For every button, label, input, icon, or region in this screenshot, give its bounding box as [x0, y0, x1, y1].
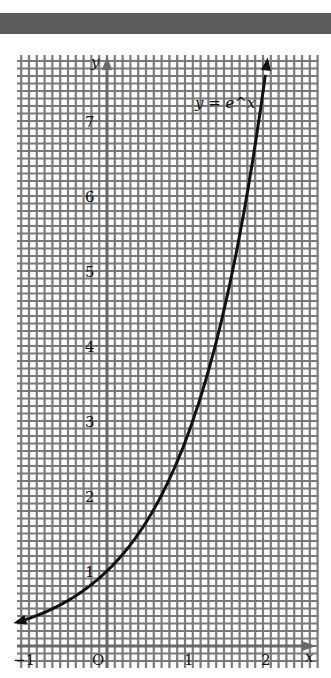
curve-label: y = e^x	[194, 94, 256, 112]
y-tick-label: 4	[85, 338, 95, 356]
origin-label: O	[92, 651, 104, 669]
grid	[17, 55, 318, 668]
x-tick-label: 2	[261, 651, 271, 669]
x-tick-label: 1	[184, 651, 194, 669]
x-axis-label: x	[305, 648, 314, 666]
y-axis-label: y	[90, 53, 100, 71]
y-tick-label: 2	[85, 488, 95, 506]
y-tick-label: 5	[85, 263, 95, 281]
y-tick-label: 1	[85, 563, 95, 581]
exponential-chart: 1234567−112Oxy y = e^x	[0, 0, 331, 678]
y-tick-label: 7	[85, 113, 95, 131]
x-tick-label: −1	[13, 651, 35, 669]
y-tick-label: 3	[85, 413, 95, 431]
y-tick-label: 6	[85, 188, 95, 206]
